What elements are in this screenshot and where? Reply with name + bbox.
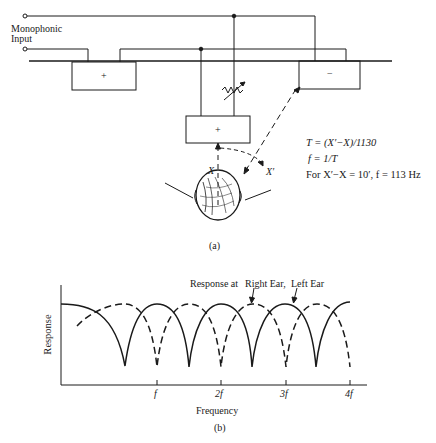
left-ear-curve — [77, 304, 350, 367]
arc-arrow — [220, 148, 262, 163]
arrow-head-icon — [258, 161, 263, 166]
arrow-head-icon — [244, 167, 249, 174]
arrow-head-icon — [250, 297, 255, 303]
speaker-right-sign: − — [327, 68, 333, 79]
equation-frequency: f = 1/T — [308, 153, 337, 165]
arrow-up-icon — [216, 143, 221, 149]
tick-label-3f: 3f — [280, 388, 288, 399]
path-x-prime — [246, 89, 296, 170]
arrow-head-icon — [294, 87, 300, 93]
legend-right-ear: Right Ear, — [245, 278, 286, 289]
tick-label-2f: 2f — [215, 388, 223, 399]
input-label-line2: Input — [11, 33, 32, 44]
x-axis-label: Frequency — [196, 405, 238, 416]
caption-a: (a) — [209, 240, 220, 251]
equation-example: For X′−X = 10′, f = 113 Hz — [306, 169, 421, 181]
path-xprime-label: X′ — [266, 166, 274, 177]
caption-b: (b) — [214, 422, 226, 433]
speaker-left-sign: + — [101, 70, 107, 81]
input-terminal-bottom — [23, 47, 346, 62]
input-terminal-top — [23, 14, 315, 61]
tick-label-4f: 4f — [345, 388, 353, 399]
arrow-head-icon — [292, 297, 297, 303]
equation-period: T = (X′−X)/1130 — [306, 137, 376, 149]
tick-label-f: f — [154, 388, 157, 399]
legend-left-ear: Left Ear — [291, 278, 324, 289]
legend-prefix: Response at — [190, 278, 238, 289]
diagram-canvas — [0, 0, 436, 443]
y-axis-label: Response — [42, 314, 53, 354]
path-x-label: X — [208, 165, 214, 176]
speaker-center-sign: + — [215, 124, 221, 135]
